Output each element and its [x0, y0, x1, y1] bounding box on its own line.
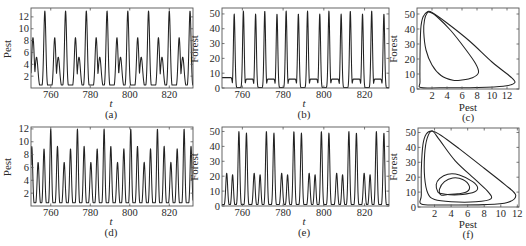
x-tick-label: 4: [444, 90, 450, 101]
y-tick-label: 50: [406, 127, 417, 138]
y-tick-label: 20: [406, 172, 417, 183]
x-tick-label: 800: [316, 207, 332, 218]
y-tick-label: 0: [215, 83, 220, 94]
y-tick-label: 12: [19, 123, 30, 134]
x-tick-label: 780: [82, 207, 98, 218]
x-tick-label: 760: [43, 207, 59, 218]
panel-label-b: (b): [298, 108, 311, 121]
data-curve: [439, 178, 469, 196]
y-tick-label: 6: [24, 47, 29, 58]
x-tick-label: 780: [275, 207, 291, 218]
y-tick-label: 0: [410, 84, 415, 95]
y-tick-label: 4: [24, 175, 30, 186]
x-tick-label: 12: [512, 208, 523, 219]
y-tick-label: 20: [210, 53, 221, 64]
y-tick-label: 2: [24, 188, 29, 199]
panel-label-e: (e): [298, 226, 311, 239]
y-tick-label: 20: [210, 171, 221, 182]
x-tick-label: 2: [429, 90, 434, 101]
y-tick-label: 12: [19, 11, 30, 22]
x-tick-label: 780: [82, 89, 98, 100]
panel-a-pest-time-series: 76078080082024681012: [19, 8, 194, 100]
x-tick-label: 800: [316, 89, 332, 100]
x-tick-label: 820: [357, 207, 373, 218]
y-tick-label: 10: [19, 136, 30, 147]
y-tick-label: 2: [24, 71, 29, 82]
x-tick-label: 12: [502, 90, 513, 101]
x-tick-label: 760: [234, 89, 250, 100]
plot-area: [31, 129, 193, 203]
panel-label-c: (c): [462, 111, 475, 124]
y-axis-label-f: Forest: [387, 153, 399, 181]
x-tick-label: 10: [487, 90, 498, 101]
y-tick-label: 10: [210, 68, 221, 79]
data-curve: [419, 11, 515, 88]
data-curve: [424, 12, 479, 81]
x-tick-label: 760: [43, 89, 59, 100]
y-tick-label: 0: [411, 202, 416, 213]
panel-f-phase-portrait: 2468101201020304050: [406, 127, 523, 219]
y-tick-label: 50: [210, 126, 221, 137]
x-tick-label: 820: [357, 89, 373, 100]
panel-label-d: (d): [105, 226, 118, 239]
x-tick-label: 10: [496, 208, 507, 219]
y-tick-label: 50: [405, 9, 416, 20]
plot-area: [222, 131, 389, 204]
panel-e-forest-time-series: 76078080082001020304050: [210, 126, 390, 218]
x-tick-label: 4: [448, 208, 454, 219]
x-tick-label: 2: [432, 208, 437, 219]
y-axis-label-c: Forest: [387, 35, 399, 63]
data-curve: [31, 11, 193, 85]
y-axis-label-e: Forest: [188, 153, 200, 181]
y-tick-label: 40: [406, 142, 417, 153]
y-axis-label-a: Pest: [1, 40, 13, 58]
plot-area: [420, 131, 516, 205]
x-tick-label: 8: [482, 208, 487, 219]
x-tick-label: 780: [275, 89, 291, 100]
x-tick-label: 760: [234, 207, 250, 218]
panel-d-pest-time-series: 76078080082024681012: [19, 123, 194, 218]
y-tick-label: 30: [210, 38, 221, 49]
y-tick-label: 10: [210, 186, 221, 197]
x-tick-label: 800: [122, 89, 138, 100]
data-curve: [31, 129, 193, 203]
figure: 76078080082024681012 7607808008200102030…: [0, 0, 526, 246]
axes-frame: [418, 128, 519, 207]
x-tick-label: 820: [161, 207, 177, 218]
data-curve: [222, 11, 389, 88]
x-tick-label: 800: [122, 207, 138, 218]
y-tick-label: 8: [24, 149, 29, 160]
y-tick-label: 40: [210, 23, 221, 34]
y-tick-label: 40: [405, 24, 416, 35]
plot-area: [31, 11, 193, 85]
x-tick-label: 6: [459, 90, 464, 101]
x-tick-label: 820: [161, 89, 177, 100]
y-tick-label: 30: [405, 39, 416, 50]
x-tick-label: 8: [474, 90, 479, 101]
y-tick-label: 0: [215, 201, 220, 212]
plot-area: [222, 11, 389, 88]
y-tick-label: 40: [210, 141, 221, 152]
y-tick-label: 30: [406, 157, 417, 168]
panel-label-a: (a): [105, 108, 118, 121]
data-curve: [222, 131, 389, 204]
y-tick-label: 6: [24, 162, 29, 173]
y-tick-label: 20: [405, 54, 416, 65]
y-tick-label: 50: [210, 8, 221, 19]
y-axis-label-b: Forest: [188, 35, 200, 63]
y-tick-label: 10: [19, 23, 30, 34]
plot-area: [419, 11, 515, 88]
panel-label-f: (f): [463, 228, 474, 241]
y-axis-label-d: Pest: [1, 158, 13, 176]
y-tick-label: 4: [24, 59, 30, 70]
y-tick-label: 10: [406, 187, 417, 198]
y-tick-label: 8: [24, 35, 29, 46]
panel-c-phase-portrait: 2468101201020304050: [405, 8, 520, 101]
y-tick-label: 30: [210, 156, 221, 167]
y-tick-label: 10: [405, 69, 416, 80]
panel-b-forest-time-series: 76078080082001020304050: [210, 8, 390, 100]
axes-frame: [417, 8, 519, 89]
